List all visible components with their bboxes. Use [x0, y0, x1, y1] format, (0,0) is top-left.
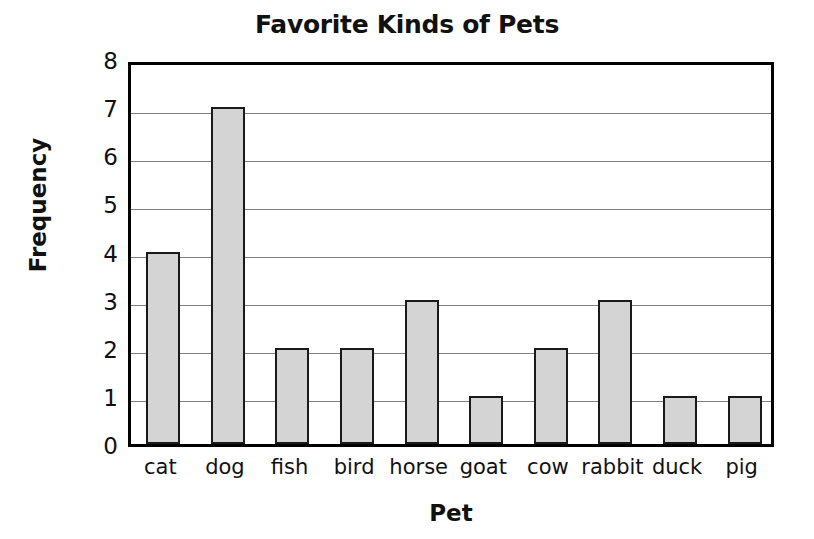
bar-slot	[325, 65, 390, 444]
bar-slot	[454, 65, 519, 444]
x-tick-label: fish	[257, 455, 322, 479]
bar-slot	[583, 65, 648, 444]
x-tick-label: bird	[322, 455, 387, 479]
bar	[728, 396, 762, 444]
x-axis-title: Pet	[128, 500, 774, 526]
y-tick-label: 2	[78, 339, 118, 362]
bar	[598, 300, 632, 444]
bar-slot	[519, 65, 584, 444]
bar-slot	[260, 65, 325, 444]
x-tick-label: cat	[128, 455, 193, 479]
y-tick-label: 5	[78, 194, 118, 217]
y-axis-tick-labels: 012345678	[72, 62, 118, 447]
bar	[211, 107, 245, 444]
bar-slot	[389, 65, 454, 444]
x-tick-label: cow	[516, 455, 581, 479]
x-tick-label: goat	[451, 455, 516, 479]
bar-slot	[712, 65, 777, 444]
chart-title: Favorite Kinds of Pets	[0, 10, 814, 39]
y-tick-label: 8	[78, 50, 118, 73]
y-tick-label: 1	[78, 387, 118, 410]
x-tick-label: rabbit	[580, 455, 645, 479]
plot-area	[128, 62, 774, 447]
x-tick-label: horse	[386, 455, 451, 479]
bar-slot	[196, 65, 261, 444]
bar	[405, 300, 439, 444]
bar	[146, 252, 180, 445]
bar-slot	[131, 65, 196, 444]
bar	[275, 348, 309, 444]
x-tick-label: pig	[709, 455, 774, 479]
bar	[469, 396, 503, 444]
bar-series	[131, 65, 771, 444]
bar	[663, 396, 697, 444]
bar-chart: Favorite Kinds of Pets Frequency 0123456…	[0, 0, 814, 539]
y-tick-label: 0	[78, 435, 118, 458]
bar-slot	[648, 65, 713, 444]
x-tick-label: duck	[645, 455, 710, 479]
y-axis-title: Frequency	[25, 105, 51, 305]
y-tick-label: 6	[78, 146, 118, 169]
bar	[534, 348, 568, 444]
x-tick-label: dog	[193, 455, 258, 479]
y-tick-label: 7	[78, 98, 118, 121]
bar	[340, 348, 374, 444]
x-axis-tick-labels: catdogfishbirdhorsegoatcowrabbitduckpig	[128, 455, 774, 485]
y-tick-label: 3	[78, 291, 118, 314]
y-tick-label: 4	[78, 243, 118, 266]
